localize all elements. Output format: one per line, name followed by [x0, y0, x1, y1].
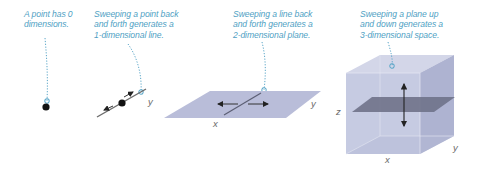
axis-label-plane-x: x [213, 118, 218, 129]
leader-line-plane [262, 42, 265, 90]
leader-line-point [45, 38, 47, 101]
point-dot [42, 103, 49, 110]
panel-space [346, 42, 455, 154]
axis-label-space-x: x [385, 154, 390, 165]
panel-point [42, 38, 49, 111]
axis-label-space-z: z [336, 106, 341, 117]
point-dot-moving [118, 99, 125, 106]
arrow-right [124, 92, 133, 97]
axis-label-line-y: y [148, 96, 153, 107]
panel-plane [164, 42, 321, 118]
leader-line-line [128, 44, 141, 92]
panel-line [97, 44, 146, 117]
dimensions-diagram [0, 0, 478, 173]
axis-label-space-y: y [453, 142, 458, 153]
axis-label-plane-y: y [311, 98, 316, 109]
